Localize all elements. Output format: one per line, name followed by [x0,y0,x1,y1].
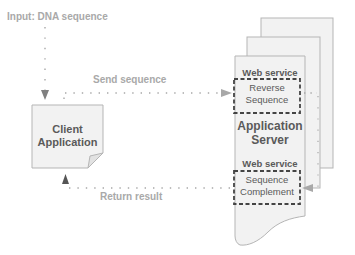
service1-line1: Reverse [234,82,300,94]
send-sequence-label: Send sequence [93,75,166,85]
server-line2: Server [235,133,305,147]
web-service-header-1: Web service [235,68,305,78]
client-line1: Client [32,123,103,136]
server-line1: Application [235,119,305,133]
service1-line2: Sequence [234,94,300,106]
sequence-complement-label: Sequence Complement [234,174,300,198]
client-line2: Application [32,136,103,149]
service2-line1: Sequence [234,174,300,186]
return-result-arrow [62,174,230,188]
send-sequence-arrow [64,89,232,99]
return-result-label: Return result [100,192,162,202]
client-application-title: Client Application [32,123,103,149]
input-label: Input: DNA sequence [7,12,108,22]
web-service-header-2: Web service [235,159,305,169]
input-arrow [41,27,49,100]
reverse-sequence-label: Reverse Sequence [234,82,300,106]
service2-line2: Complement [234,186,300,198]
application-server-title: Application Server [235,119,305,147]
